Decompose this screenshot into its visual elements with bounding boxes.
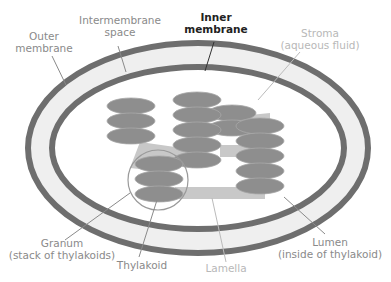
label-thylakoid: Thylakoid (110, 259, 174, 271)
thylakoid (173, 107, 221, 123)
thylakoid (107, 113, 155, 129)
thylakoid (135, 156, 183, 172)
chloroplast-diagram: Outer membrane Intermembrane space Inner… (0, 0, 391, 282)
thylakoid (135, 186, 183, 202)
thylakoid (173, 92, 221, 108)
label-stroma: Stroma (aqueous fluid) (270, 27, 370, 51)
thylakoid (107, 98, 155, 114)
label-outer-membrane: Outer membrane (12, 30, 76, 54)
thylakoid (173, 137, 221, 153)
leader-outer-membrane (52, 56, 66, 85)
label-lumen: Lumen (inside of thylakoid) (272, 236, 388, 260)
thylakoid (236, 163, 284, 179)
thylakoid (135, 171, 183, 187)
label-inner-membrane: Inner membrane (180, 11, 252, 35)
thylakoid (236, 133, 284, 149)
label-lamella: Lamella (197, 262, 255, 274)
label-granum: Granum (stack of thylakoids) (6, 237, 118, 261)
thylakoid (236, 178, 284, 194)
thylakoid (173, 122, 221, 138)
thylakoid (236, 118, 284, 134)
thylakoid (107, 128, 155, 144)
label-intermembrane-space: Intermembrane space (70, 14, 170, 38)
thylakoid (236, 148, 284, 164)
